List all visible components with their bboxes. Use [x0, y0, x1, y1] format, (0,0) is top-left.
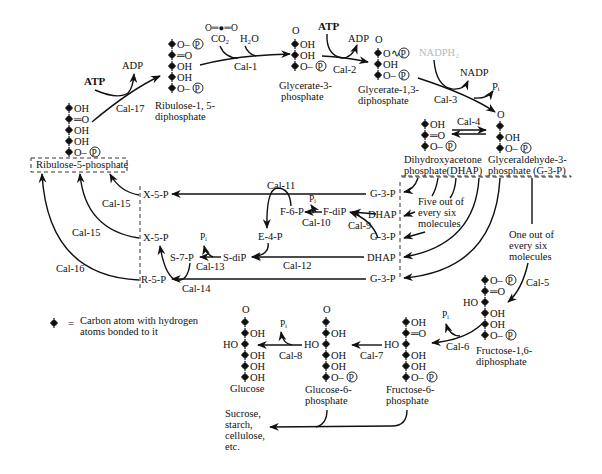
g3p-2: G-3-P [370, 231, 396, 242]
enzyme-cal6: Cal-6 [446, 341, 469, 352]
svg-text:O–: O– [505, 143, 519, 154]
adp-label-top: ADP [348, 33, 369, 44]
svg-text:etc.: etc. [225, 441, 240, 452]
svg-text:P: P [429, 373, 434, 383]
g3p-label: Glyceraldehyde-3- [488, 154, 567, 165]
f6p: F-6-P [280, 206, 304, 217]
h2o-label: H₂O [240, 33, 259, 44]
co2-structure: O═●═O [205, 23, 238, 33]
enzyme-cal15-2: Cal-15 [72, 227, 101, 238]
x5p-2: X-5-P [143, 232, 169, 243]
svg-text:P: P [401, 49, 406, 59]
enzyme-cal12: Cal-12 [283, 260, 312, 271]
enzyme-cal17: Cal-17 [116, 103, 145, 114]
enzyme-cal14: Cal-14 [182, 283, 211, 294]
enzyme-cal13: Cal-13 [196, 261, 225, 272]
svg-text:HO: HO [223, 339, 239, 350]
svg-text:OH: OH [250, 372, 266, 383]
dhap-1: DHAP [368, 209, 397, 220]
pi-cal10-label: Pᵢ [309, 194, 316, 204]
svg-text:P: P [401, 71, 406, 81]
g3p-1: G-3-P [370, 188, 396, 199]
svg-text:(G-3-P): (G-3-P) [533, 165, 566, 177]
svg-text:O–: O– [490, 330, 504, 341]
fructose-16dp-label: Fructose-1,6- [476, 345, 533, 356]
dhap-label: Dihydroxyacetone [404, 154, 482, 165]
svg-text:=: = [68, 318, 74, 329]
svg-text:OH: OH [250, 361, 266, 372]
enzyme-cal10: Cal-10 [302, 217, 331, 228]
glucose-label: Glucose [230, 383, 265, 394]
svg-text:O–: O– [300, 61, 314, 72]
ribulose-5-phosphate-label: Ribulose-5-phosphate [36, 159, 128, 170]
ribulose-diphosphate-label: Ribulose-1, 5- [155, 100, 216, 111]
svg-text:molecules: molecules [418, 218, 461, 229]
svg-text:═O: ═O [176, 50, 192, 61]
cal2-arrow [322, 56, 368, 62]
svg-text:P: P [448, 142, 453, 152]
f-dip: F-diP [323, 206, 347, 217]
svg-text:OH: OH [411, 350, 427, 361]
svg-text:P: P [92, 148, 97, 158]
atp-label-top: ATP [318, 20, 339, 32]
svg-text:O–: O– [331, 372, 345, 383]
products-arrow [270, 410, 407, 427]
enzyme-cal5: Cal-5 [526, 277, 549, 288]
svg-text:O: O [242, 304, 250, 315]
fructose-6p-label: Fructose-6- [386, 384, 435, 395]
svg-text:═O: ═O [410, 328, 426, 339]
calvin-cycle-diagram: O═●═O CO₂ H₂O Cal-1 O–P ═O OH OH O–P Rib… [0, 0, 602, 474]
pi-cal3-label: Pᵢ [492, 81, 500, 92]
products-line1: Sucrose, [225, 408, 261, 419]
s7p: S-7-P [170, 252, 194, 263]
enzyme-cal8: Cal-8 [279, 350, 302, 361]
glycerate-1-3-diphosphate: O∿P OH O–P [374, 48, 409, 81]
r5p: R-5-P [141, 274, 166, 285]
svg-text:phosphate: phosphate [488, 165, 531, 176]
svg-text:P: P [195, 84, 200, 94]
enzyme-cal11: Cal-11 [267, 180, 295, 191]
svg-text:OH: OH [411, 361, 427, 372]
legend-line2: atoms bonded to it [80, 326, 158, 337]
svg-text:phosphate: phosphate [305, 395, 348, 406]
enzyme-cal9: Cal-9 [348, 220, 371, 231]
glucose-6-phosphate: OH HO OH OH O–P [304, 317, 357, 383]
svg-text:every six: every six [418, 207, 457, 218]
svg-text:HO: HO [304, 339, 320, 350]
e4p: E-4-P [258, 231, 283, 242]
enzyme-cal4: Cal-4 [457, 116, 481, 127]
enzyme-cal16: Cal-16 [56, 263, 85, 274]
svg-text:O–: O– [74, 147, 88, 158]
svg-text:molecules: molecules [509, 251, 552, 262]
svg-text:P: P [523, 144, 528, 154]
svg-text:diphosphate: diphosphate [358, 95, 409, 106]
svg-text:OH: OH [74, 125, 90, 136]
pi-cal8-label: Pᵢ [280, 319, 287, 329]
svg-text:P: P [318, 62, 323, 72]
carbon-atom-icon [50, 318, 58, 328]
svg-text:OH: OH [490, 308, 506, 319]
co2-input: O═●═O CO₂ H₂O [205, 23, 259, 58]
fructose-6-phosphate: OH ═O HO OH OH O–P [384, 317, 437, 383]
enzyme-cal1: Cal-1 [234, 61, 257, 72]
svg-text:OH: OH [505, 132, 521, 143]
svg-text:HO: HO [463, 297, 479, 308]
svg-text:HO: HO [384, 339, 400, 350]
dhap-2: DHAP [367, 252, 396, 263]
five-of-six-line1: Five out of [418, 196, 465, 207]
svg-text:OH: OH [430, 119, 446, 130]
svg-text:P: P [508, 331, 513, 341]
glycerate-13dp-label: Glycerate-1,3- [358, 84, 419, 95]
svg-text:OH: OH [331, 361, 347, 372]
svg-text:OH: OH [331, 350, 347, 361]
svg-text:diphosphate: diphosphate [155, 111, 206, 122]
glycerate-3p-top-o: O [292, 25, 300, 36]
legend-line1: Carbon atom with hydrogen [80, 315, 199, 326]
x5p-1: X-5-P [143, 189, 169, 200]
s-dip: S-diP [223, 252, 247, 263]
pi-cal13-label: Pᵢ [200, 232, 207, 242]
glyceraldehyde-3-phosphate: OH O–P [496, 121, 531, 154]
nadph2-label: NADPH₂ [419, 47, 459, 58]
legend: = Carbon atom with hydrogen atoms bonded… [50, 315, 199, 337]
svg-text:O–: O– [177, 83, 191, 94]
